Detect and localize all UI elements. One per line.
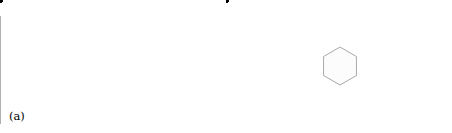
figure-container: (a) (b) [0, 0, 452, 133]
lattice-dot [226, 0, 229, 3]
hexagon-cell-group [324, 47, 357, 85]
wigner-seitz-hexagon-1 [324, 47, 357, 85]
panel-a-label: (a) [9, 111, 25, 123]
panel-b: (b) [226, 0, 452, 133]
panel-a-canvas [0, 0, 226, 133]
lattice-dot [0, 0, 3, 3]
panel-a: (a) [0, 0, 226, 133]
lattice-dot-group-b [226, 0, 229, 3]
lattice-dot-group-a [0, 0, 3, 3]
panel-b-canvas [226, 0, 452, 133]
